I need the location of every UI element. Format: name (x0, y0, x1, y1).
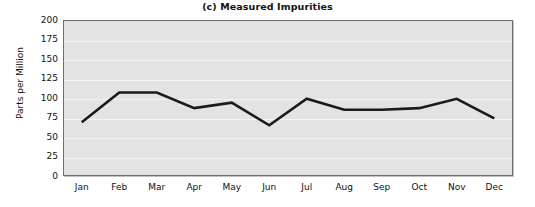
y-tick-label: 125 (18, 74, 58, 83)
y-tick-label: 75 (18, 113, 58, 122)
y-tick-label: 0 (18, 172, 58, 181)
plot-area-wrapper (63, 20, 513, 176)
x-tick-label: Dec (471, 182, 517, 193)
line-series-layer (63, 20, 513, 176)
chart-title: (c) Measured Impurities (0, 0, 535, 13)
y-tick-label: 175 (18, 35, 58, 44)
y-axis-tick-labels: 0255075100125150175200 (16, 20, 58, 176)
x-axis-tick-labels: JanFebMarAprMayJunJulAugSepOctNovDec (63, 182, 513, 196)
y-tick-label: 100 (18, 94, 58, 103)
y-tick-label: 25 (18, 152, 58, 161)
y-tick-label: 200 (18, 16, 58, 25)
y-tick-label: 50 (18, 133, 58, 142)
chart-figure: (c) Measured Impurities Parts per Millio… (0, 0, 535, 207)
series-line-measured-impurities (82, 93, 495, 126)
y-tick-label: 150 (18, 55, 58, 64)
